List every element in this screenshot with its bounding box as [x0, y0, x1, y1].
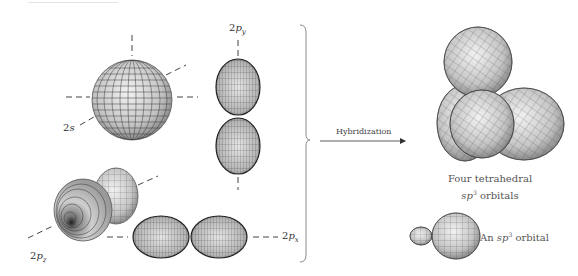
2px-orbital [133, 216, 247, 258]
right-bracket [300, 25, 310, 262]
hybridization-label: Hybridization [336, 127, 391, 136]
tetrahedral-caption: Four tetrahedral sp3 orbitals [440, 172, 540, 203]
2pz-orbital [54, 168, 138, 241]
label-2pz: 2pz [30, 250, 46, 264]
2py-orbital [216, 59, 260, 174]
single-sp3-orbital [410, 213, 480, 259]
tetrahedral-sp3-orbitals [437, 27, 564, 161]
single-sp3-caption: An sp3 orbital [480, 228, 549, 245]
2s-orbital [90, 60, 174, 140]
label-2px: 2px [282, 230, 299, 244]
label-2py: 2py [229, 22, 246, 36]
label-2s: 2s [63, 122, 75, 133]
hybridization-arrow [320, 138, 406, 144]
